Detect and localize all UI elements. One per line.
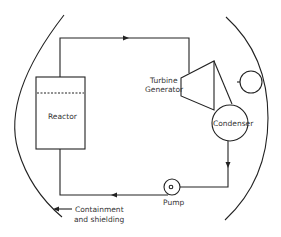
containment-label-line1: Containment xyxy=(75,205,124,214)
steam-line xyxy=(60,38,189,77)
turbine-label-line2: Generator xyxy=(145,85,184,94)
containment-label-line2: and shielding xyxy=(74,215,125,224)
turbine-label-line1: Turbine xyxy=(149,76,178,85)
pump-label: Pump xyxy=(163,198,184,207)
feedwater-line xyxy=(60,149,168,195)
flow-arrow-left-icon xyxy=(111,193,117,198)
pump xyxy=(164,179,180,195)
generator xyxy=(240,71,262,93)
turbine-generator-shaft xyxy=(214,61,232,104)
turbine xyxy=(181,61,214,110)
condensate-line xyxy=(180,141,228,187)
condenser-label: Condenser xyxy=(213,119,254,128)
reactor-label: Reactor xyxy=(48,112,78,121)
containment-arrow-icon xyxy=(53,207,59,212)
flow-arrow-down-icon xyxy=(226,162,231,168)
diagram-canvas: Reactor Turbine Generator Condenser Pump… xyxy=(0,0,281,237)
flow-arrow-right-icon xyxy=(123,36,129,41)
pump-impeller xyxy=(169,185,173,189)
